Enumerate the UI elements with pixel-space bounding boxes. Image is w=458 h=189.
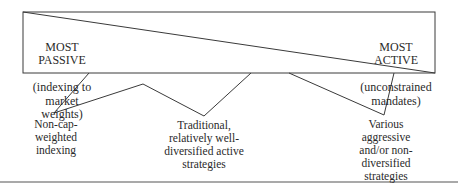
most-active-label: MOST ACTIVE (unconstrained mandates) (358, 27, 434, 122)
most-active-subtitle: (unconstrained mandates) (358, 81, 434, 108)
bracket-traditional (143, 73, 251, 116)
category-traditional: Traditional, relatively well- diversifie… (156, 119, 252, 171)
category-aggressive: Various aggressive and/or non- diversifi… (348, 118, 424, 183)
most-passive-subtitle: (indexing to market weights) (24, 81, 100, 122)
most-passive-title: MOST PASSIVE (24, 41, 100, 68)
category-non-cap-weighted: Non-cap-weighted indexing (14, 118, 98, 157)
most-active-title: MOST ACTIVE (358, 41, 434, 68)
